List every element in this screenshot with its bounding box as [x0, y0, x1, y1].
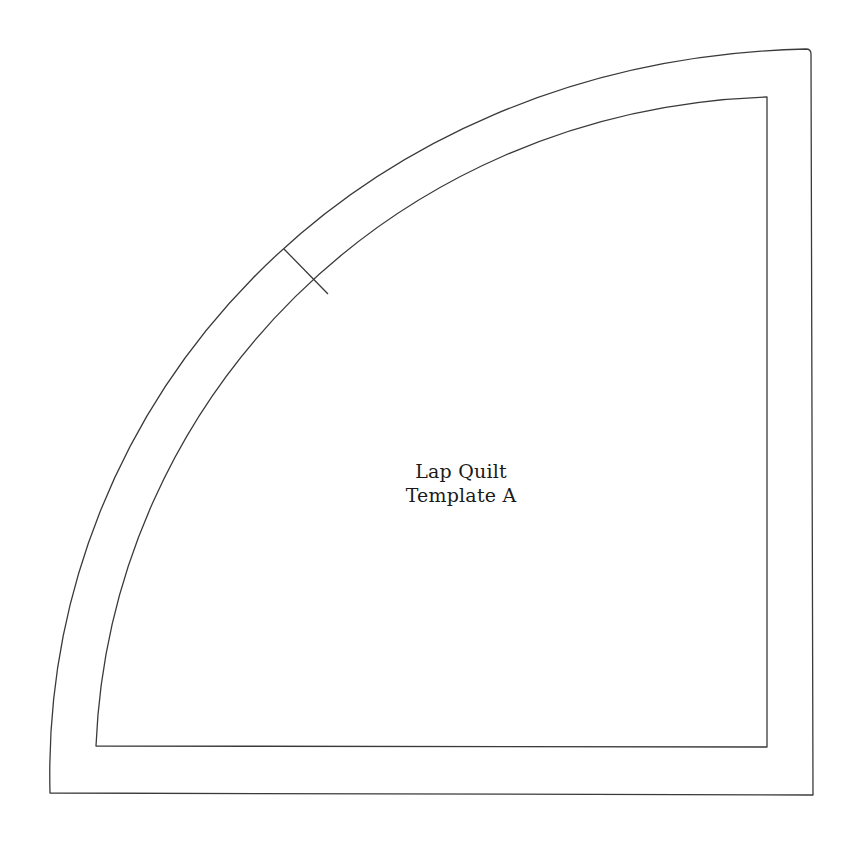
template-title: Lap Quilt	[381, 459, 541, 483]
inner-sewing-line	[96, 97, 767, 747]
template-label: Lap Quilt Template A	[381, 459, 541, 507]
template-subtitle: Template A	[381, 483, 541, 507]
quilt-template-drawing	[0, 0, 862, 841]
outer-cut-line	[50, 49, 813, 795]
